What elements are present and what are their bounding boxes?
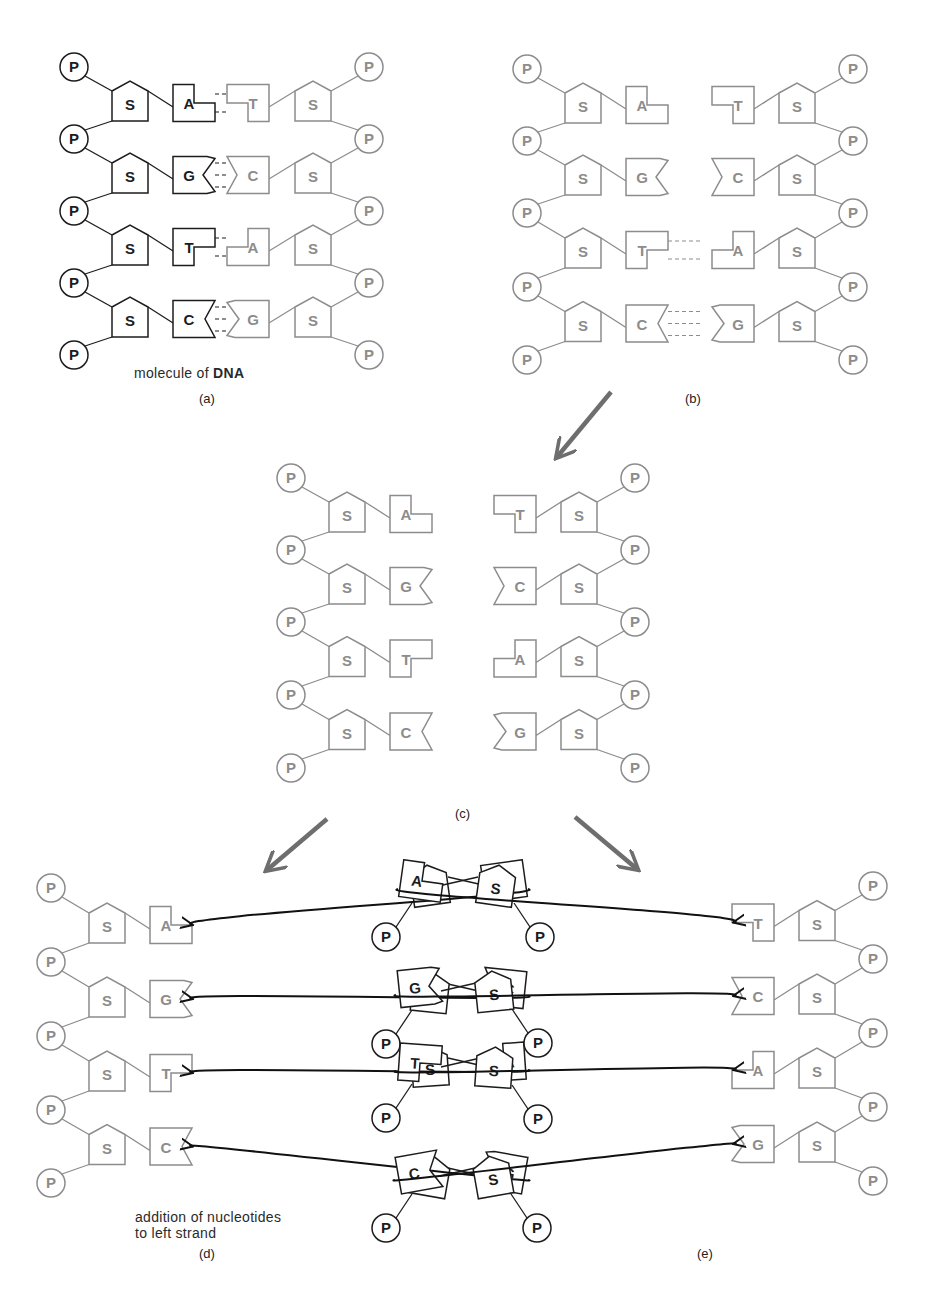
bond-line	[302, 487, 329, 502]
bond-line	[835, 1014, 862, 1024]
sugar: S	[565, 155, 601, 195]
sugar-label: S	[792, 98, 802, 115]
phosphate-label: P	[364, 130, 374, 147]
base-A: A	[227, 229, 269, 266]
phosphate-label: P	[868, 1172, 878, 1189]
phosphate-label: P	[868, 1098, 878, 1115]
bond-line	[331, 76, 358, 91]
sugar-label: S	[125, 168, 135, 185]
bond-line	[835, 1116, 862, 1132]
bond-line	[815, 342, 842, 352]
phosphate-label: P	[46, 1027, 56, 1044]
base-shape-icon	[626, 232, 668, 269]
bond-line	[754, 165, 779, 181]
phosphate: P	[513, 346, 541, 374]
bond-line	[365, 720, 390, 736]
sugar-label: S	[578, 317, 588, 334]
bond-line	[601, 93, 626, 109]
base-C: C	[494, 568, 536, 605]
sugar: S	[89, 1125, 125, 1165]
bond-line	[331, 148, 358, 163]
caption-molecule-of-dna: molecule of DNA	[134, 365, 244, 381]
phosphate: P	[513, 127, 541, 155]
bond-line	[774, 911, 799, 927]
phosphate-label: P	[69, 274, 79, 291]
phosphate-label: P	[848, 132, 858, 149]
bond-line	[302, 677, 329, 687]
bond-line	[815, 222, 842, 238]
phosphate: P	[859, 1167, 887, 1195]
caption-d-line1: addition of nucleotides	[135, 1209, 281, 1225]
bond-line	[835, 895, 862, 911]
bond-line	[774, 1058, 799, 1074]
phosphate-label: P	[868, 1024, 878, 1041]
sugar-label: S	[342, 507, 352, 524]
sugar-label: S	[792, 243, 802, 260]
phosphate: P	[526, 923, 554, 951]
base-label: T	[248, 95, 257, 112]
base-G: G	[494, 713, 536, 750]
bond-line	[396, 1084, 412, 1108]
phosphate-label: P	[364, 202, 374, 219]
base-G: G	[732, 1126, 774, 1163]
base-A: A	[150, 907, 192, 944]
phosphate: P	[355, 269, 383, 297]
phosphate: P	[37, 1169, 65, 1197]
base-G: G	[390, 568, 432, 605]
bond-line	[148, 91, 173, 107]
sugar: S	[799, 974, 835, 1014]
base-label: A	[733, 242, 744, 259]
bond-line	[835, 1088, 862, 1098]
base-G: G	[712, 305, 754, 342]
base-label: G	[247, 311, 259, 328]
phosphate: P	[621, 536, 649, 564]
base-label: C	[161, 1139, 172, 1156]
bond-line	[365, 502, 390, 518]
bond-line	[835, 941, 862, 951]
sugar-label: S	[308, 240, 318, 257]
sugar-label: S	[308, 312, 318, 329]
phosphate: P	[277, 681, 305, 709]
bond-line	[396, 1194, 412, 1218]
base-A: A	[494, 640, 536, 677]
sugar: S	[799, 1048, 835, 1088]
phosphate: P	[37, 1096, 65, 1124]
bond-line	[331, 193, 358, 202]
pairing-arrow-icon	[393, 1143, 735, 1180]
bond-line	[125, 987, 150, 1003]
sugar-label: S	[488, 986, 500, 1004]
bond-line	[365, 574, 390, 590]
base-label: A	[184, 95, 195, 112]
phosphate-label: P	[381, 1219, 391, 1236]
bond-line	[597, 704, 624, 720]
bond-line	[815, 268, 842, 278]
phosphate: P	[60, 125, 88, 153]
phosphate: P	[839, 127, 867, 155]
base-A: A	[390, 496, 432, 533]
sugar: S	[89, 903, 125, 943]
sugar: S	[112, 225, 148, 265]
panel-c-separated-strands: SASGSTSCPPPPPSTSCSASGPPPPP	[277, 464, 649, 782]
phosphate-label: P	[630, 759, 640, 776]
bond-line	[601, 165, 626, 181]
base-label: A	[515, 651, 526, 668]
sugar: S	[561, 564, 597, 604]
bond-line	[365, 647, 390, 663]
bond-line	[302, 532, 329, 541]
bond-line	[536, 647, 561, 663]
base-label: G	[732, 316, 744, 333]
phosphate: P	[839, 199, 867, 227]
phosphate-label: P	[522, 60, 532, 77]
panel-a-dna-molecule: SASGSTSCPPPPPSTSCSASGPPPPP	[60, 53, 383, 369]
sugar-label: S	[812, 1137, 822, 1154]
phosphate-label: P	[522, 132, 532, 149]
sugar: S	[329, 710, 365, 750]
phosphate-label: P	[533, 1034, 543, 1051]
sugar: S	[295, 225, 331, 265]
sugar-label: S	[342, 579, 352, 596]
phosphate-label: P	[848, 60, 858, 77]
panel-b-unzipping: SASGSTSCPPPPPSTSCSASGPPPPP	[513, 55, 867, 374]
bond-line	[62, 943, 89, 953]
base-shape-icon	[173, 229, 215, 266]
base-label: G	[183, 167, 195, 184]
